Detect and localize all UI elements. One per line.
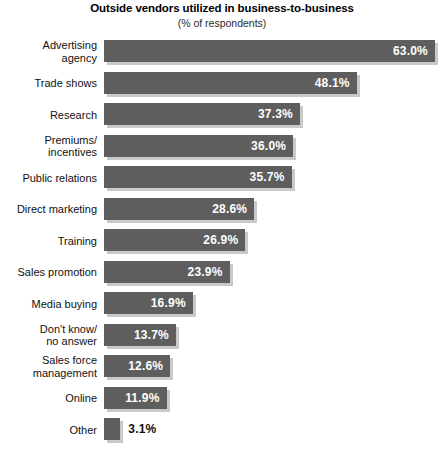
bar-row: Advertising agency63.0% bbox=[0, 36, 444, 68]
bar[interactable]: 26.9% bbox=[104, 229, 245, 251]
bar-rows-container: Advertising agency63.0%Trade shows48.1%R… bbox=[0, 36, 444, 446]
bar-value-label: 36.0% bbox=[251, 139, 286, 153]
bar[interactable]: 16.9% bbox=[104, 292, 193, 314]
bar-value-label: 23.9% bbox=[188, 265, 223, 279]
bar-track: 3.1% bbox=[104, 414, 444, 446]
category-label: Training bbox=[0, 235, 104, 248]
chart-title: Outside vendors utilized in business-to-… bbox=[0, 0, 444, 15]
bar[interactable] bbox=[104, 418, 120, 440]
bar[interactable]: 37.3% bbox=[104, 103, 300, 125]
category-label: Don't know/ no answer bbox=[0, 323, 104, 348]
bar[interactable]: 36.0% bbox=[104, 135, 293, 157]
bar-value-label: 16.9% bbox=[151, 296, 186, 310]
bar[interactable]: 13.7% bbox=[104, 324, 176, 346]
category-label: Sales promotion bbox=[0, 266, 104, 279]
bar-row: Sales force management12.6% bbox=[0, 351, 444, 383]
bar-row: Premiums/ incentives36.0% bbox=[0, 131, 444, 163]
bar-track: 13.7% bbox=[104, 320, 444, 352]
bar[interactable]: 12.6% bbox=[104, 355, 170, 377]
category-label: Other bbox=[0, 424, 104, 437]
bar[interactable]: 48.1% bbox=[104, 72, 357, 94]
bar-value-label: 48.1% bbox=[315, 76, 350, 90]
category-label: Research bbox=[0, 109, 104, 122]
category-label: Trade shows bbox=[0, 77, 104, 90]
bar-row: Other3.1% bbox=[0, 414, 444, 446]
bar-row: Public relations35.7% bbox=[0, 162, 444, 194]
bar-value-label: 3.1% bbox=[120, 418, 156, 440]
bar[interactable]: 63.0% bbox=[104, 40, 435, 62]
category-label: Sales force management bbox=[0, 354, 104, 379]
bar[interactable]: 35.7% bbox=[104, 166, 292, 188]
bar-value-label: 11.9% bbox=[125, 391, 159, 405]
bar-row: Online11.9% bbox=[0, 383, 444, 415]
category-label: Public relations bbox=[0, 172, 104, 185]
bar-track: 26.9% bbox=[104, 225, 444, 257]
bar-track: 36.0% bbox=[104, 131, 444, 163]
category-label: Direct marketing bbox=[0, 203, 104, 216]
bar-track: 23.9% bbox=[104, 257, 444, 289]
bar-chart: Outside vendors utilized in business-to-… bbox=[0, 0, 444, 457]
bar-track: 63.0% bbox=[104, 36, 444, 68]
bar-row: Don't know/ no answer13.7% bbox=[0, 320, 444, 352]
bar-value-label: 37.3% bbox=[258, 107, 293, 121]
bar-track: 12.6% bbox=[104, 351, 444, 383]
bar-row: Research37.3% bbox=[0, 99, 444, 131]
category-label: Media buying bbox=[0, 298, 104, 311]
bar[interactable]: 11.9% bbox=[104, 387, 167, 409]
bar-track: 28.6% bbox=[104, 194, 444, 226]
bar[interactable]: 28.6% bbox=[104, 198, 254, 220]
bar-value-label: 13.7% bbox=[134, 328, 169, 342]
bar-value-label: 12.6% bbox=[128, 359, 163, 373]
bar-track: 11.9% bbox=[104, 383, 444, 415]
bar[interactable]: 23.9% bbox=[104, 261, 230, 283]
bar-row: Media buying16.9% bbox=[0, 288, 444, 320]
bar-track: 16.9% bbox=[104, 288, 444, 320]
bar-value-label: 26.9% bbox=[203, 233, 238, 247]
bar-track: 48.1% bbox=[104, 68, 444, 100]
bar-row: Training26.9% bbox=[0, 225, 444, 257]
bar-value-label: 35.7% bbox=[250, 170, 285, 184]
category-label: Online bbox=[0, 392, 104, 405]
bar-row: Trade shows48.1% bbox=[0, 68, 444, 100]
category-label: Premiums/ incentives bbox=[0, 134, 104, 159]
bar-track: 37.3% bbox=[104, 99, 444, 131]
bar-row: Direct marketing28.6% bbox=[0, 194, 444, 226]
bar-value-label: 63.0% bbox=[393, 44, 428, 58]
chart-subtitle: (% of respondents) bbox=[0, 15, 444, 30]
category-label: Advertising agency bbox=[0, 39, 104, 64]
bar-row: Sales promotion23.9% bbox=[0, 257, 444, 289]
bar-track: 35.7% bbox=[104, 162, 444, 194]
bar-value-label: 28.6% bbox=[212, 202, 247, 216]
